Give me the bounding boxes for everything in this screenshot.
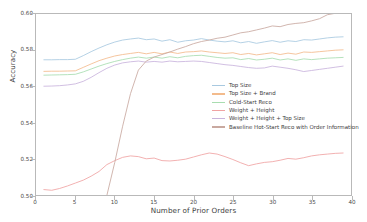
- legend-label: Top Size: [229, 82, 251, 89]
- x-tick-mark: [154, 196, 155, 200]
- legend-label: Weight + Height + Top Size: [229, 115, 305, 122]
- legend-item[interactable]: Cold-Start Reco: [212, 99, 352, 106]
- series-line: [44, 153, 343, 190]
- legend-swatch-icon: [212, 110, 225, 111]
- legend-item[interactable]: Weight + Height: [212, 107, 352, 114]
- x-tick-mark: [35, 196, 36, 200]
- legend-swatch-icon: [212, 102, 225, 103]
- y-tick-label: 0.50: [5, 193, 33, 199]
- legend-swatch-icon: [212, 85, 225, 86]
- series-line: [44, 37, 343, 60]
- legend-swatch-icon: [212, 126, 225, 127]
- x-tick-mark: [194, 196, 195, 200]
- x-tick-mark: [114, 196, 115, 200]
- y-tick-label: 0.56: [5, 83, 33, 89]
- x-tick-mark: [312, 196, 313, 200]
- x-tick-mark: [273, 196, 274, 200]
- legend-item[interactable]: Baseline Hot-Start Reco with Order Infor…: [212, 123, 352, 130]
- x-tick-mark: [233, 196, 234, 200]
- legend-label: Baseline Hot-Start Reco with Order Infor…: [229, 124, 359, 131]
- chart-figure: Accuracy 0.500.520.540.560.580.60 051015…: [0, 0, 367, 222]
- legend-item[interactable]: Weight + Height + Top Size: [212, 115, 352, 122]
- legend-label: Top Size + Brand: [229, 90, 276, 97]
- chart-legend: Top SizeTop Size + BrandCold-Start RecoW…: [212, 82, 352, 132]
- legend-swatch-icon: [212, 93, 225, 94]
- x-axis-label: Number of Prior Orders: [35, 206, 352, 215]
- y-axis-label: Accuracy: [9, 21, 17, 111]
- x-tick-mark: [75, 196, 76, 200]
- legend-label: Weight + Height: [229, 107, 274, 114]
- y-tick-label: 0.54: [5, 120, 33, 126]
- y-tick-label: 0.58: [5, 46, 33, 52]
- y-tick-label: 0.52: [5, 156, 33, 162]
- x-tick-mark: [352, 196, 353, 200]
- legend-label: Cold-Start Reco: [229, 99, 272, 106]
- y-tick-label: 0.60: [5, 10, 33, 16]
- legend-item[interactable]: Top Size + Brand: [212, 90, 352, 97]
- legend-swatch-icon: [212, 118, 225, 119]
- legend-item[interactable]: Top Size: [212, 82, 352, 89]
